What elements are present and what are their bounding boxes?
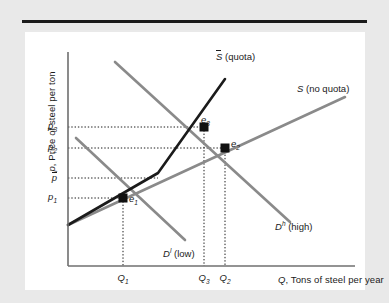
curve-label-note-supply-quota: (quota)	[225, 51, 255, 62]
curve-label-supply-no-quota: S (no quota)	[297, 83, 349, 94]
equilibrium-label-e3: e3	[201, 114, 210, 127]
curve-label-note-supply-no-quota: (no quota)	[306, 83, 349, 94]
curve-label-superscript-demand-low: l	[170, 247, 171, 254]
curve-label-demand-high: Dh (high)	[275, 220, 312, 232]
equilibrium-label-e2: e2	[231, 138, 240, 151]
x-tick-symbol-q1: Q	[117, 272, 124, 283]
header-rule	[22, 20, 367, 23]
y-tick-label-p1: p1	[35, 191, 57, 204]
curve-label-superscript-demand-high: h	[282, 220, 286, 227]
y-axis-title-symbol: p	[46, 166, 57, 171]
y-tick-label-pbar: p	[35, 172, 57, 183]
curve-label-symbol-demand-high: D	[275, 221, 282, 232]
supply-demand-plot	[25, 32, 365, 290]
curve-label-note-demand-low: (low)	[174, 248, 195, 259]
equilibrium-label-e1: e1	[129, 193, 138, 206]
x-tick-subscript-q1: 1	[125, 278, 129, 285]
y-tick-label-p3: p3	[35, 120, 57, 133]
curve-label-symbol-supply-quota: S	[216, 51, 222, 62]
curve-label-note-demand-high: (high)	[288, 221, 312, 232]
equilibrium-marker-e1	[119, 194, 128, 203]
x-axis-title-symbol: Q	[278, 274, 286, 285]
curve-label-symbol-supply-no-quota: S	[297, 83, 303, 94]
x-tick-symbol-q2: Q	[219, 272, 226, 283]
y-tick-subscript-p1: 1	[53, 197, 57, 204]
x-axis-title-text: , Tons of steel per year	[286, 274, 384, 285]
x-tick-subscript-q3: 3	[206, 278, 210, 285]
x-tick-label-q2: Q2	[215, 272, 235, 285]
y-tick-subscript-p2: 2	[53, 147, 57, 154]
figure-root: p, Price of steel per ton Q, Tons of ste…	[0, 0, 389, 303]
y-tick-subscript-p3: 3	[53, 126, 57, 133]
equilibrium-subscript-e1: 1	[134, 199, 138, 206]
curve-label-demand-low: Dl (low)	[163, 247, 195, 259]
x-tick-label-q1: Q1	[113, 272, 133, 285]
equilibrium-marker-e2	[221, 144, 230, 153]
chart-panel: p, Price of steel per ton Q, Tons of ste…	[25, 32, 365, 290]
x-tick-label-q3: Q3	[194, 272, 214, 285]
y-tick-label-p2: p2	[35, 141, 57, 154]
curve-label-supply-quota: S (quota)	[216, 51, 255, 62]
x-tick-subscript-q2: 2	[227, 278, 231, 285]
x-tick-symbol-q3: Q	[198, 272, 205, 283]
equilibrium-subscript-e3: 3	[206, 120, 210, 127]
x-axis-title: Q, Tons of steel per year	[278, 274, 384, 285]
y-tick-symbol-pbar: p	[52, 172, 57, 183]
curve-label-symbol-demand-low: D	[163, 248, 170, 259]
equilibrium-subscript-e2: 2	[236, 144, 240, 151]
guide-lines	[68, 127, 225, 266]
